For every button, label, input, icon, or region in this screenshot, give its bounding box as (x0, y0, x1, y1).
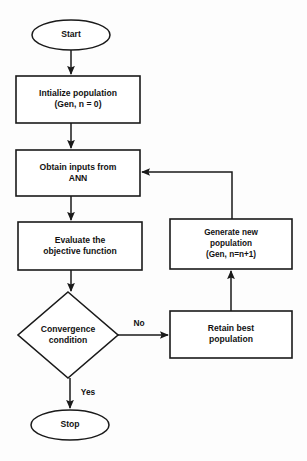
node-label-evaluate-objective-function: objective function (43, 246, 117, 256)
node-label-start: Start (61, 29, 81, 39)
edge-label-convergence-yes-to-stop: Yes (81, 387, 96, 397)
node-label-retain-best-population: Retain best (208, 323, 254, 333)
node-label-obtain-inputs-ann: ANN (69, 173, 88, 183)
node-label-generate-new-population: (Gen, n=n+1) (206, 250, 256, 259)
node-label-evaluate-objective-function: Evaluate the (55, 235, 106, 245)
flow-node-retain-best-population[interactable]: Retain bestpopulation (170, 311, 292, 358)
flow-node-obtain-inputs-ann[interactable]: Obtain inputs fromANN (16, 150, 140, 196)
node-label-generate-new-population: population (210, 239, 252, 248)
flow-connector-generate-to-obtain-feedback (142, 172, 232, 219)
node-label-generate-new-population: Generate new (204, 228, 258, 237)
flow-node-generate-new-population[interactable]: Generate newpopulation(Gen, n=n+1) (170, 219, 292, 269)
flow-node-stop[interactable]: Stop (31, 410, 109, 440)
flow-node-convergence-condition[interactable]: Convergencecondition (18, 292, 118, 378)
node-label-initialize-population: Intialize population (39, 88, 117, 98)
node-label-obtain-inputs-ann: Obtain inputs from (40, 162, 117, 172)
node-label-convergence-condition: Convergence (41, 324, 96, 334)
flowchart-diagram: StartIntialize population(Gen, n = 0)Obt… (0, 0, 307, 461)
edge-label-convergence-no-to-retain: No (133, 318, 144, 328)
nodes-layer: StartIntialize population(Gen, n = 0)Obt… (16, 20, 292, 440)
node-label-initialize-population: (Gen, n = 0) (54, 99, 101, 109)
node-label-retain-best-population: population (209, 334, 253, 344)
flow-node-initialize-population[interactable]: Intialize population(Gen, n = 0) (16, 76, 140, 123)
flow-node-evaluate-objective-function[interactable]: Evaluate theobjective function (18, 222, 142, 270)
node-label-convergence-condition: condition (49, 335, 88, 345)
node-label-stop: Stop (60, 419, 79, 429)
flowchart-canvas: StartIntialize population(Gen, n = 0)Obt… (0, 0, 307, 461)
flow-node-start[interactable]: Start (32, 20, 110, 50)
